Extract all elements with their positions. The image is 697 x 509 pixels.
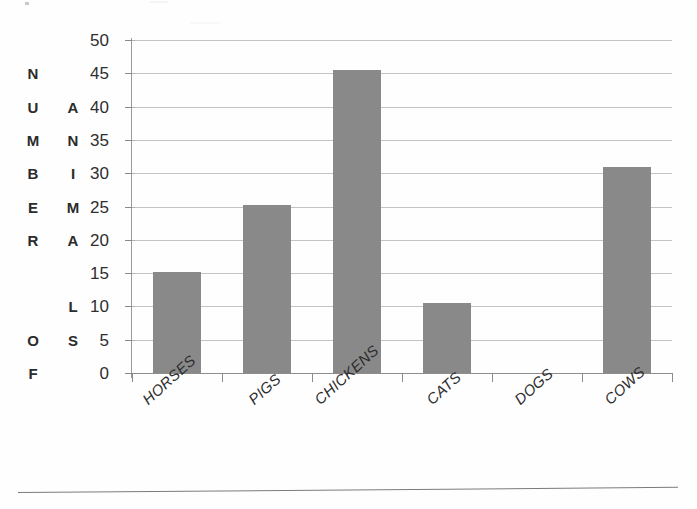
y-axis-title-letter: R [22, 233, 44, 248]
gridline [132, 306, 672, 307]
x-axis-tick-mark [582, 373, 583, 382]
y-axis-tick-label: 10 [69, 298, 109, 315]
y-axis-title-letter: M [22, 133, 44, 148]
gridline [132, 173, 672, 174]
y-axis-title-letter: U [22, 100, 44, 115]
y-axis-tick-label: 40 [69, 98, 109, 115]
y-axis-title-letter: N [22, 66, 44, 81]
x-axis-tick-mark [222, 373, 223, 382]
scan-artifact [150, 1, 168, 3]
y-axis-tick-label: 20 [69, 231, 109, 248]
y-axis-tick-label: 25 [69, 198, 109, 215]
bar-pigs [243, 205, 291, 373]
y-axis-title-letter: O [22, 333, 44, 348]
x-axis-label-cats: CATS [423, 368, 464, 407]
x-axis-tick-mark [312, 373, 313, 382]
y-axis-tick-label: 45 [69, 65, 109, 82]
y-axis-tick-label: 5 [69, 331, 109, 348]
bar-cows [603, 167, 651, 373]
x-axis-tick-mark [132, 373, 133, 382]
y-axis-tick-label: 35 [69, 131, 109, 148]
y-axis-title-letter: E [22, 200, 44, 215]
page-bottom-rule [18, 487, 678, 493]
y-axis-tick-label: 15 [69, 265, 109, 282]
y-axis-title-column-number-of: NUMBEROF [22, 0, 44, 509]
gridline [132, 107, 672, 108]
gridline [132, 340, 672, 341]
gridline [132, 140, 672, 141]
gridline [132, 273, 672, 274]
y-axis-tick-label: 50 [69, 32, 109, 49]
gridline [132, 73, 672, 74]
y-axis-title-letter: F [22, 366, 44, 381]
x-axis-tick-mark [672, 373, 673, 382]
chart-page: NUMBEROF ANIMALS 50454035302520151050 HO… [0, 0, 697, 509]
gridline [132, 207, 672, 208]
bar-cats [423, 303, 471, 373]
x-axis-tick-mark [402, 373, 403, 382]
x-axis-label-pigs: PIGS [245, 370, 284, 407]
y-axis-tick-label: 0 [69, 365, 109, 382]
gridline [132, 40, 672, 41]
y-axis-tick-labels: 50454035302520151050 [63, 0, 109, 509]
y-axis-tick-label: 30 [69, 165, 109, 182]
plot-area [132, 40, 672, 373]
scan-artifact [190, 22, 220, 24]
bar-chickens [333, 70, 381, 373]
gridline [132, 240, 672, 241]
y-axis-title-letter: B [22, 166, 44, 181]
x-axis-tick-mark [492, 373, 493, 382]
